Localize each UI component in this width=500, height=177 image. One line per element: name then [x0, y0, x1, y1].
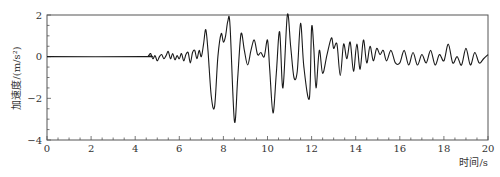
- x-tick-label: 10: [261, 143, 274, 154]
- x-tick-label: 4: [132, 143, 138, 154]
- x-tick-label: 18: [438, 143, 451, 154]
- acceleration-series-line: [47, 14, 488, 123]
- y-axis-title: 加速度/(m/s²): [10, 46, 22, 109]
- x-tick-label: 12: [305, 143, 318, 154]
- x-tick-label: 0: [44, 143, 50, 154]
- minor-ticks: [47, 15, 488, 140]
- y-tick-label: 2: [36, 10, 42, 21]
- x-tick-label: 20: [482, 143, 495, 154]
- plot-border: [47, 15, 488, 140]
- y-axis-ticks: 20−2−4: [27, 10, 42, 146]
- x-tick-label: 14: [349, 143, 362, 154]
- x-axis-ticks: 02468101214161820: [44, 143, 495, 154]
- y-tick-label: 0: [36, 51, 42, 62]
- x-axis-title: 时间/s: [459, 156, 488, 168]
- acceleration-time-chart: 02468101214161820 20−2−4 时间/s 加速度/(m/s²): [0, 0, 500, 177]
- x-tick-label: 16: [393, 143, 406, 154]
- x-tick-label: 2: [88, 143, 94, 154]
- x-tick-label: 6: [176, 143, 182, 154]
- plot-frame: [47, 15, 488, 140]
- y-tick-label: −4: [27, 135, 42, 146]
- x-tick-label: 8: [220, 143, 226, 154]
- y-tick-label: −2: [27, 93, 42, 104]
